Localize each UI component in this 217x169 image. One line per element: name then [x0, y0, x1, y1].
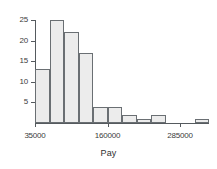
- x-tick-mark: [180, 123, 181, 127]
- histogram-bar: [137, 119, 152, 123]
- histogram-bar: [64, 32, 79, 123]
- y-tick-label: 10: [6, 78, 28, 86]
- x-tick-label: 285000: [156, 131, 204, 140]
- histogram-bar: [93, 107, 108, 123]
- histogram-bar: [195, 119, 210, 123]
- histogram-figure: 510152025 35000160000285000 Pay: [0, 0, 217, 169]
- x-tick-label: 160000: [84, 131, 132, 140]
- y-tick-mark: [31, 41, 35, 42]
- histogram-bar: [108, 107, 123, 123]
- plot-area: 510152025 35000160000285000 Pay: [0, 0, 217, 169]
- y-tick-mark: [31, 20, 35, 21]
- y-tick-mark: [31, 61, 35, 62]
- histogram-bar: [50, 20, 65, 123]
- y-tick-label: 5: [6, 98, 28, 106]
- x-tick-mark: [108, 123, 109, 127]
- x-tick-label: 35000: [11, 131, 59, 140]
- x-axis-line: [35, 123, 209, 124]
- x-axis-title: Pay: [0, 148, 217, 158]
- y-tick-label: 20: [6, 37, 28, 45]
- histogram-bar: [79, 53, 94, 123]
- y-tick-label: 25: [6, 16, 28, 24]
- histogram-bar: [151, 115, 166, 123]
- histogram-bar: [122, 115, 137, 123]
- histogram-bar: [35, 69, 50, 123]
- x-tick-mark: [35, 123, 36, 127]
- y-tick-label: 15: [6, 57, 28, 65]
